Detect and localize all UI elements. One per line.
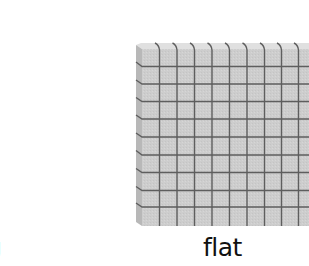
- flat-top-edge: [136, 43, 309, 49]
- flat-label: flat: [203, 235, 242, 260]
- flat-block: [0, 0, 309, 266]
- figure: g: [0, 0, 309, 266]
